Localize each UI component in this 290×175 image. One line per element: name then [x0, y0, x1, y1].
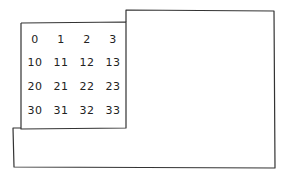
- grid-cell: 1: [48, 33, 74, 46]
- grid-cell: 11: [48, 56, 74, 69]
- grid-cell: 12: [74, 56, 100, 69]
- grid-cell: 20: [22, 80, 48, 93]
- grid-cell: 21: [48, 80, 74, 93]
- grid-cell: 13: [100, 56, 126, 69]
- grid-cell: 22: [74, 80, 100, 93]
- grid-cell: 0: [22, 33, 48, 46]
- grid-cell: 32: [74, 104, 100, 117]
- grid-cell: 31: [48, 104, 74, 117]
- grid-cell: 2: [74, 33, 100, 46]
- grid-cell: 10: [22, 56, 48, 69]
- grid-cell: 23: [100, 80, 126, 93]
- grid-cell: 3: [100, 33, 126, 46]
- number-grid: 0 1 2 3 10 11 12 13 20 21 22 23 30 31 32…: [22, 33, 126, 123]
- grid-cell: 30: [22, 104, 48, 117]
- grid-cell: 33: [100, 104, 126, 117]
